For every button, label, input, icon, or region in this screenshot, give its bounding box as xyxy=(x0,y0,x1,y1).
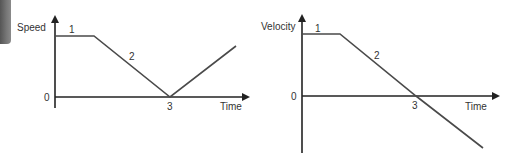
segment-label-2: 2 xyxy=(374,50,380,61)
y-axis-label: Velocity xyxy=(261,21,295,32)
y-axis-label: Speed xyxy=(17,22,46,33)
segment-label-2: 2 xyxy=(129,51,135,62)
x-axis-label: Time xyxy=(220,101,242,112)
velocity-time-graph: Velocity Time 0 1 2 3 xyxy=(261,16,498,153)
speed-time-graph: Speed Time 0 1 2 3 xyxy=(17,17,248,112)
motion-graphs: Speed Time 0 1 2 3 Velocity Time 0 1 2 3 xyxy=(0,0,517,161)
segment-label-1: 1 xyxy=(315,23,321,34)
segment-label-3: 3 xyxy=(167,101,173,112)
origin-label: 0 xyxy=(44,92,50,103)
x-axis-label: Time xyxy=(465,101,487,112)
velocity-line xyxy=(302,34,483,148)
origin-label: 0 xyxy=(291,91,297,102)
segment-label-3: 3 xyxy=(412,100,418,111)
speed-line xyxy=(55,36,236,97)
segment-label-1: 1 xyxy=(69,24,75,35)
